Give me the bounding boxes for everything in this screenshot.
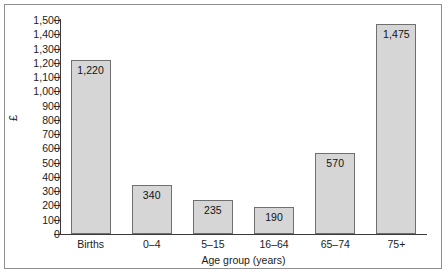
y-tick-label: 1,300 (14, 44, 60, 55)
y-tick-label: 0 (14, 229, 60, 240)
x-tick-label: 0–4 (121, 238, 182, 251)
bar-value-label: 1,475 (377, 29, 415, 40)
y-tick-label: 1,500 (14, 15, 60, 26)
x-axis-label: Age group (years) (60, 254, 427, 266)
bar-value-label: 340 (133, 190, 171, 201)
bar-value-label: 1,220 (72, 65, 110, 76)
y-tick-label: 1,400 (14, 29, 60, 40)
bar: 190 (254, 207, 294, 234)
bar-value-label: 190 (255, 212, 293, 223)
x-tick-label: 65–74 (305, 238, 366, 251)
x-tick-label: Births (60, 238, 121, 251)
y-tick-label: 600 (14, 143, 60, 154)
y-tick-label: 400 (14, 172, 60, 183)
bar: 235 (193, 200, 233, 234)
y-tick-label: 900 (14, 101, 60, 112)
y-tick-label: 700 (14, 129, 60, 140)
bar: 1,220 (71, 60, 111, 234)
x-tick-label: 75+ (366, 238, 427, 251)
y-tick-label: 1,000 (14, 86, 60, 97)
bar-chart-plot: £ Age group (years) 1,5001,4001,3001,200… (0, 0, 447, 274)
y-axis-line (60, 19, 61, 235)
x-tick-label: 16–64 (244, 238, 305, 251)
y-tick-label: 500 (14, 158, 60, 169)
x-axis-line (60, 234, 427, 235)
bar: 1,475 (376, 24, 416, 234)
x-tick-label: 5–15 (182, 238, 243, 251)
y-tick-label: 300 (14, 186, 60, 197)
bar: 340 (132, 185, 172, 234)
bar-value-label: 570 (316, 158, 354, 169)
y-tick-label: 800 (14, 115, 60, 126)
y-tick-label: 1,200 (14, 58, 60, 69)
figure-container: £ Age group (years) 1,5001,4001,3001,200… (0, 0, 447, 274)
bar: 570 (315, 153, 355, 234)
y-tick-label: 100 (14, 215, 60, 226)
y-tick-label: 200 (14, 200, 60, 211)
y-tick-label: 1,100 (14, 72, 60, 83)
bar-value-label: 235 (194, 205, 232, 216)
